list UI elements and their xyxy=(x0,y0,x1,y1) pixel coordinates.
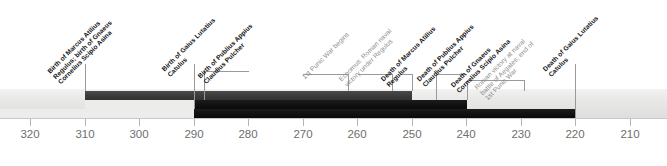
lifespan-bar-asina xyxy=(194,100,467,109)
axis-tick xyxy=(85,119,86,126)
lifespan-bar-gap-catulus xyxy=(0,109,194,118)
axis-tick-label: 310 xyxy=(65,128,105,140)
axis-tick-label: 320 xyxy=(10,128,50,140)
leader-line-death-regulus xyxy=(412,74,413,91)
event-label-line: Regulus; birth of Gnaeus xyxy=(51,18,113,80)
axis-tick xyxy=(521,119,522,126)
timeline-chart: Birth of Marcus Atilius Regulus; birth o… xyxy=(0,0,667,166)
axis-tick xyxy=(630,119,631,126)
axis-tick-label: 300 xyxy=(119,128,159,140)
leader-line-aegates xyxy=(524,80,525,91)
axis-tick-label: 290 xyxy=(174,128,214,140)
event-label-death-catulus: Death of Gaius Lutatius Catulus xyxy=(541,14,605,78)
axis-tick-label: 220 xyxy=(555,128,595,140)
axis-tick-label: 280 xyxy=(228,128,268,140)
lifespan-bar-gap-asina xyxy=(85,100,194,109)
axis-tick-label: 230 xyxy=(501,128,541,140)
lifespan-bar-regulus xyxy=(85,91,412,100)
axis-tick xyxy=(303,119,304,126)
axis-rule xyxy=(0,118,667,119)
axis-tick xyxy=(194,119,195,126)
axis-tick xyxy=(466,119,467,126)
leader-line-birth-regulus-asina xyxy=(85,64,86,91)
axis-tick-label: 210 xyxy=(610,128,650,140)
leader-line-birth-catulus xyxy=(194,64,195,109)
event-label-birth-regulus-asina: Birth of Marcus Atilius Regulus; birth o… xyxy=(46,13,119,86)
leader-line-death-catulus xyxy=(575,64,576,118)
axis-tick-label: 240 xyxy=(446,128,486,140)
axis-tick xyxy=(412,119,413,126)
axis-tick xyxy=(139,119,140,126)
axis-tick xyxy=(575,119,576,126)
event-label-line: Death of Gaius Lutatius xyxy=(541,14,600,73)
axis-tick-label: 250 xyxy=(392,128,432,140)
axis-tick xyxy=(248,119,249,126)
axis-tick-label: 260 xyxy=(337,128,377,140)
lifespan-bar-catulus xyxy=(194,109,575,118)
axis-tick-label: 270 xyxy=(283,128,323,140)
axis-tick xyxy=(30,119,31,126)
axis-tick xyxy=(357,119,358,126)
